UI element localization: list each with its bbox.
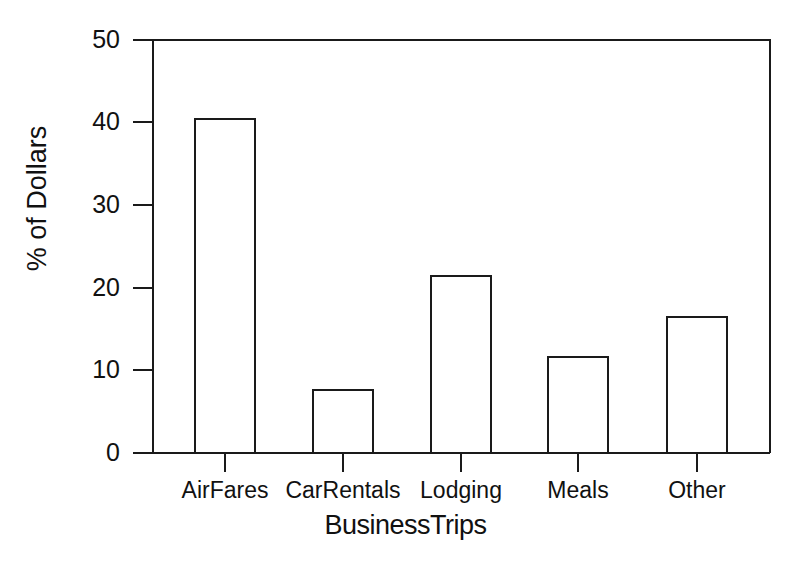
bar-lodging: [431, 276, 491, 453]
bar-chart: 50 40 30 20 10 0 AirFares CarRentals Lod…: [0, 0, 811, 573]
y-tick-label-40: 40: [58, 109, 120, 134]
y-tick-label-30: 30: [58, 192, 120, 217]
y-tick-marks: [133, 40, 153, 453]
y-tick-label-50: 50: [58, 27, 120, 52]
y-tick-label-10: 10: [58, 357, 120, 382]
y-tick-label-0: 0: [58, 440, 120, 465]
y-axis-title: % of Dollars: [24, 99, 51, 299]
x-axis-title: BusinessTrips: [0, 512, 811, 539]
bar-series: [195, 119, 727, 453]
y-tick-label-20: 20: [58, 275, 120, 300]
bar-meals: [548, 357, 608, 453]
x-tick-marks: [225, 453, 697, 472]
x-tick-label-other: Other: [627, 479, 767, 502]
bar-carrentals: [313, 390, 373, 453]
bar-airfares: [195, 119, 255, 453]
bar-other: [667, 317, 727, 453]
